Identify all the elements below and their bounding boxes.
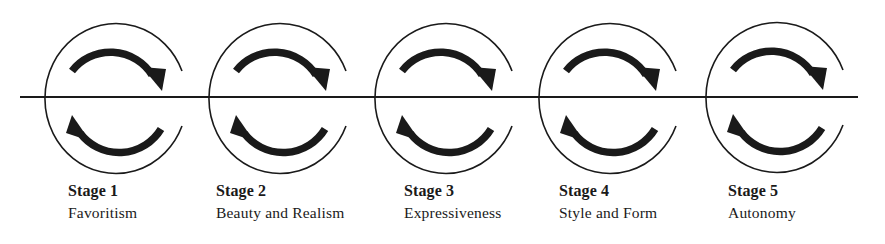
- stage-3-label: Stage 3 Expressiveness: [404, 183, 502, 221]
- stage-4-cycle-icon: [539, 24, 676, 174]
- stage-title: Stage 4: [559, 183, 657, 203]
- stage-name: Favoritism: [68, 205, 137, 221]
- stage-title: Stage 2: [216, 183, 344, 203]
- stage-title: Stage 3: [404, 183, 502, 203]
- stage-2-label: Stage 2 Beauty and Realism: [216, 183, 344, 221]
- stage-2-cycle-icon: [209, 24, 346, 174]
- stage-3-cycle-icon: [375, 24, 512, 174]
- stage-name: Expressiveness: [404, 205, 502, 221]
- stage-name: Autonomy: [728, 205, 796, 221]
- stage-5-label: Stage 5 Autonomy: [728, 183, 796, 221]
- stage-4-label: Stage 4 Style and Form: [559, 183, 657, 221]
- stage-name: Beauty and Realism: [216, 205, 344, 221]
- stage-name: Style and Form: [559, 205, 657, 221]
- stage-1-cycle-icon: [45, 24, 182, 174]
- stage-title: Stage 1: [68, 183, 137, 203]
- stage-1-label: Stage 1 Favoritism: [68, 183, 137, 221]
- stage-title: Stage 5: [728, 183, 796, 203]
